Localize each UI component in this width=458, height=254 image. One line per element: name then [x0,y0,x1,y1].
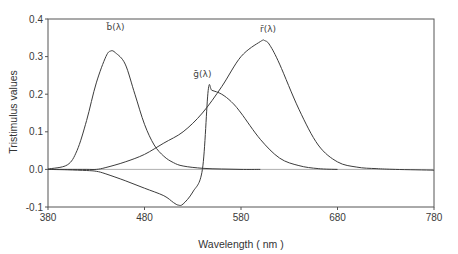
series-lines [48,40,434,206]
series-labels: b̄(λ)ḡ(λ)r̄(λ) [106,22,276,80]
series-g-bar-label: ḡ(λ) [193,69,211,79]
y-tick-label: 0.4 [29,14,43,25]
x-tick-label: 480 [136,212,153,223]
x-tick-label: 780 [426,212,443,223]
y-tick-label: 0.2 [29,89,43,100]
series-r-bar [48,40,434,170]
x-tick-label: 680 [329,212,346,223]
chart: -0.10.00.10.20.30.4 380480580680780 b̄(λ… [0,0,458,254]
y-axis-ticks: -0.10.00.10.20.30.4 [26,14,48,213]
x-tick-label: 380 [40,212,57,223]
x-axis-title: Wavelength ( nm ) [198,238,283,250]
series-b-bar-label: b̄(λ) [106,22,125,33]
y-tick-label: -0.1 [26,202,44,213]
x-tick-label: 580 [233,212,250,223]
y-tick-label: 0.1 [29,126,43,137]
x-axis-ticks: 380480580680780 [40,207,443,223]
series-r-bar-label: r̄(λ) [260,24,276,34]
series-b-bar [48,51,260,170]
y-tick-label: 0.0 [29,164,43,175]
y-tick-label: 0.3 [29,51,43,62]
y-axis-title: Tristimulus values [7,70,19,154]
